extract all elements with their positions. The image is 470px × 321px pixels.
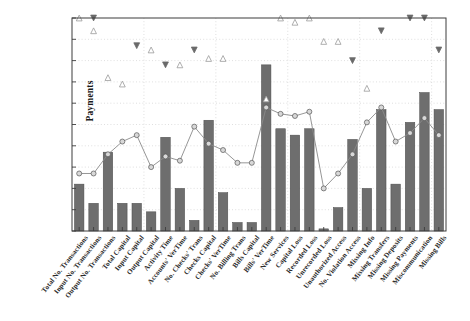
line-marker-circle [364, 120, 369, 125]
bar [276, 129, 285, 231]
line-marker-circle [149, 165, 154, 170]
bar [420, 93, 429, 231]
bar [161, 137, 170, 231]
line-marker-circle [206, 141, 211, 146]
line-marker-circle [408, 131, 413, 136]
line-marker-circle [278, 111, 283, 116]
line-marker-circle [422, 116, 427, 121]
line-marker-circle [379, 105, 384, 110]
y-axis-label: Payments [85, 41, 95, 161]
line-marker-circle [321, 186, 326, 191]
bar [132, 203, 141, 231]
bar [405, 122, 414, 231]
line-marker-circle [307, 109, 312, 114]
bar [175, 188, 184, 231]
bar [305, 129, 314, 231]
line-marker-circle [235, 160, 240, 165]
bar [89, 203, 98, 231]
bar [290, 135, 299, 231]
bar [118, 203, 127, 231]
line-marker-circle [105, 152, 110, 157]
bar [204, 120, 213, 231]
line-marker-circle [221, 148, 226, 153]
line-marker-circle [264, 105, 269, 110]
line-marker-circle [350, 152, 355, 157]
line-marker-circle [163, 154, 168, 159]
bar [434, 110, 443, 231]
line-marker-circle [292, 113, 297, 118]
line-marker-circle [336, 171, 341, 176]
bar [362, 188, 371, 231]
line-marker-circle [192, 124, 197, 129]
bar [74, 184, 83, 231]
bar [261, 65, 270, 231]
line-marker-circle [249, 160, 254, 165]
bar [377, 110, 386, 231]
line-marker-circle [393, 139, 398, 144]
line-marker-circle [436, 133, 441, 138]
line-marker-circle [77, 171, 82, 176]
bar [103, 152, 112, 231]
line-marker-circle [120, 139, 125, 144]
bar [391, 184, 400, 231]
bar [218, 193, 227, 231]
line-marker-circle [177, 158, 182, 163]
chart-figure [0, 0, 470, 321]
line-marker-circle [134, 133, 139, 138]
line-marker-circle [91, 171, 96, 176]
plot-background [72, 18, 446, 231]
